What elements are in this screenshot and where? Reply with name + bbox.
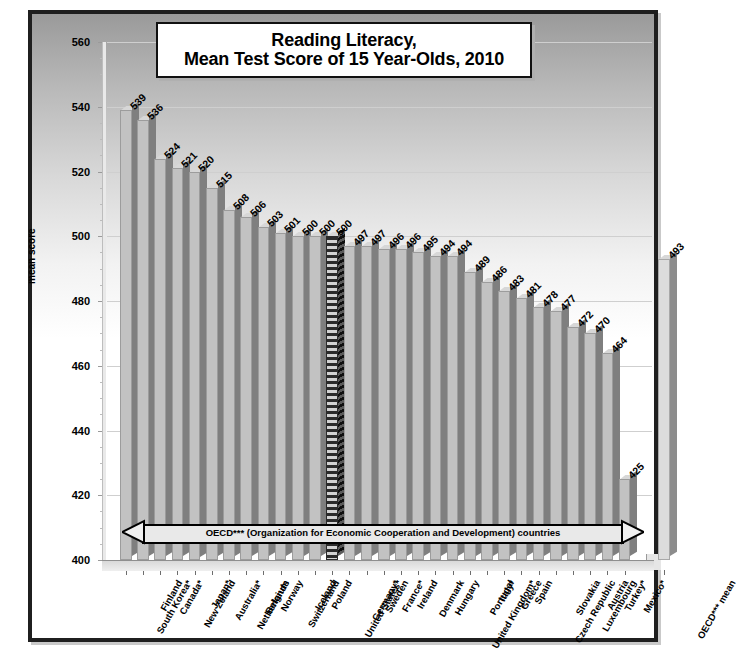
y-axis-tick-label: 540 (46, 101, 90, 113)
y-axis-title: mean score (26, 228, 37, 284)
bar (378, 249, 390, 560)
bar-front-face (309, 236, 321, 560)
bar-front-face (206, 188, 218, 560)
bar (309, 236, 321, 560)
bar-front-face (258, 227, 270, 560)
bar-front-face (137, 120, 149, 560)
bar (240, 217, 252, 560)
bar (154, 159, 166, 560)
bar-front-face (378, 249, 390, 560)
bar (412, 252, 424, 560)
y-axis-tick-label: 440 (46, 425, 90, 437)
bar-side-face (670, 251, 677, 556)
bar (430, 256, 442, 560)
bar (361, 246, 373, 560)
bar (172, 168, 184, 560)
bar-front-face (430, 256, 442, 560)
bar (395, 249, 407, 560)
bar-front-face (189, 172, 201, 561)
chart-title-line2: Mean Test Score of 15 Year-Olds, 2010 (184, 50, 504, 69)
bar-front-face (292, 236, 304, 560)
y-axis-tick-label: 500 (46, 230, 90, 242)
y-axis-tick-label: 560 (46, 36, 90, 48)
bar-front-face (120, 110, 132, 560)
oecd-annotation: OECD*** (Organization for Economic Coope… (122, 519, 644, 545)
chart-frame: mean score OECD*** (Organization for Eco… (28, 10, 658, 642)
chart-title-line1: Reading Literacy, (271, 31, 416, 50)
bar-front-face (275, 233, 287, 560)
bar (326, 236, 338, 560)
y-axis-tick-label: 400 (46, 554, 90, 566)
y-axis-tick-label: 520 (46, 166, 90, 178)
bar (447, 256, 459, 560)
gridline (107, 107, 652, 108)
bar (658, 259, 670, 560)
bar-front-face (326, 236, 338, 560)
bar (344, 246, 356, 560)
x-axis-tick-label: OECD*** mean (695, 578, 737, 641)
oecd-annotation-text: OECD*** (Organization for Economic Coope… (122, 519, 644, 545)
bar-front-face (395, 249, 407, 560)
axis-floor (102, 560, 654, 571)
y-axis-tick-label: 460 (46, 360, 90, 372)
bar (464, 272, 476, 560)
chart-title-box: Reading Literacy, Mean Test Score of 15 … (156, 22, 532, 78)
bar (292, 236, 304, 560)
bar-front-face (240, 217, 252, 560)
x-axis-tick (664, 570, 665, 575)
bar-front-face (412, 252, 424, 560)
x-axis-tick-labels: South Korea*FinlandCanada*New ZelandJapa… (107, 570, 667, 660)
bar (223, 210, 235, 560)
bar-front-face (361, 246, 373, 560)
bar-front-face (658, 259, 670, 560)
bar (120, 110, 132, 560)
bar (275, 233, 287, 560)
bar (206, 188, 218, 560)
bar-front-face (447, 256, 459, 560)
y-axis-tick-label: 480 (46, 295, 90, 307)
bar-front-face (464, 272, 476, 560)
bar-front-face (344, 246, 356, 560)
y-axis (102, 42, 106, 560)
bar (258, 227, 270, 560)
bar-front-face (154, 159, 166, 560)
bar-front-face (172, 168, 184, 560)
x-axis-tick-label: Italy* (496, 578, 517, 603)
bar-front-face (223, 210, 235, 560)
y-axis-tick-label: 420 (46, 489, 90, 501)
bar (189, 172, 201, 561)
bar (137, 120, 149, 560)
